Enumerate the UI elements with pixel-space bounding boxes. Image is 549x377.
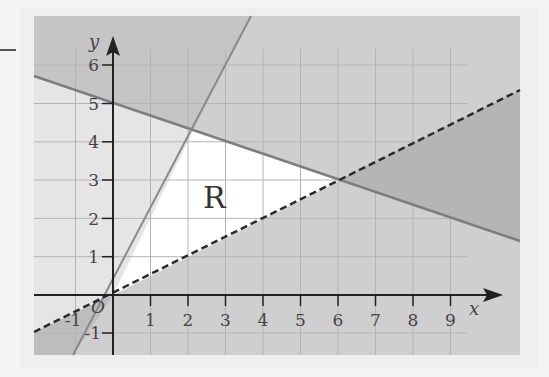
y-axis-label: y bbox=[88, 31, 100, 52]
x-tick-label: 7 bbox=[370, 310, 381, 330]
inequality-graph: -1 1 2 3 4 5 6 7 8 9 6 5 4 3 2 1 -1 y x … bbox=[0, 0, 549, 377]
x-axis-label: x bbox=[469, 298, 479, 319]
y-tick-label: 4 bbox=[88, 132, 99, 152]
x-tick-label: 8 bbox=[408, 310, 419, 330]
origin-label: O bbox=[91, 297, 105, 317]
y-tick-label: 3 bbox=[88, 170, 99, 190]
x-tick-label: 9 bbox=[445, 310, 456, 330]
y-tick-label: 5 bbox=[88, 94, 99, 114]
y-tick-label: 1 bbox=[88, 247, 99, 267]
x-tick-label: 6 bbox=[333, 310, 344, 330]
x-tick-label: 5 bbox=[295, 310, 306, 330]
region-R-label: R bbox=[203, 180, 227, 215]
x-tick-label: 4 bbox=[258, 310, 269, 330]
x-tick-label: -1 bbox=[65, 310, 82, 330]
x-tick-label: 2 bbox=[183, 310, 194, 330]
y-tick-label: 2 bbox=[88, 209, 99, 229]
y-tick-label: -1 bbox=[84, 323, 101, 343]
x-tick-label: 3 bbox=[220, 310, 231, 330]
x-tick-label: 1 bbox=[145, 310, 156, 330]
y-tick-label: 6 bbox=[88, 55, 99, 75]
